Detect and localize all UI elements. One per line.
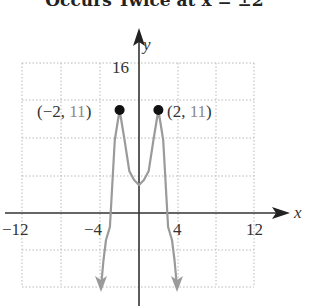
tick-label-16: 16 bbox=[112, 58, 129, 77]
point-label-left: (−2, 11) bbox=[37, 102, 91, 121]
x-axis-label: x bbox=[293, 203, 302, 222]
tick-label-12: 12 bbox=[246, 220, 263, 239]
y-axis bbox=[133, 28, 145, 306]
tick-label-neg4: −4 bbox=[84, 220, 103, 239]
tick-label-neg12: −12 bbox=[2, 220, 29, 239]
x-axis bbox=[5, 207, 290, 219]
chart-plot: y x 16 −12 −4 4 12 (−2, 11) (2, 11) bbox=[0, 0, 309, 306]
y-axis-label: y bbox=[141, 35, 151, 54]
tick-label-4: 4 bbox=[173, 220, 182, 239]
grid bbox=[22, 63, 254, 287]
point-right-max bbox=[153, 105, 163, 115]
point-left-max bbox=[115, 105, 125, 115]
point-label-right: (2, 11) bbox=[167, 102, 212, 121]
